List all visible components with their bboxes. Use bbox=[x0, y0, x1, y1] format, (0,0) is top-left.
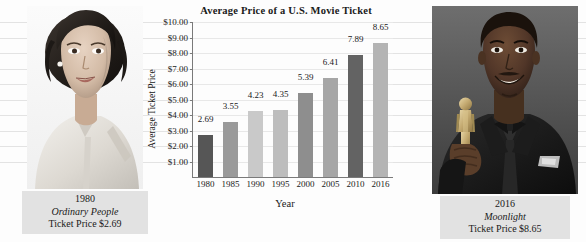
chart-title: Average Price of a U.S. Movie Ticket bbox=[136, 5, 436, 16]
bar bbox=[323, 78, 339, 177]
x-tick-label: 1990 bbox=[247, 179, 265, 189]
left-caption-movie: Ordinary People bbox=[26, 206, 144, 219]
right-photo-image bbox=[432, 6, 578, 194]
left-caption-price: Ticket Price $2.69 bbox=[26, 218, 144, 231]
left-photo-caption: 1980 Ordinary People Ticket Price $2.69 bbox=[22, 191, 148, 234]
bar-value-label: 3.55 bbox=[223, 101, 239, 111]
bar-value-label: 8.65 bbox=[373, 22, 389, 32]
x-tick-label: 1995 bbox=[272, 179, 290, 189]
right-caption-movie: Moonlight bbox=[444, 211, 566, 224]
bar-group: 4.231990 bbox=[248, 22, 264, 177]
bar bbox=[348, 55, 364, 177]
bar-group: 5.392000 bbox=[298, 22, 314, 177]
bar-group: 3.551985 bbox=[223, 22, 239, 177]
movie-ticket-price-figure: 1980 Ordinary People Ticket Price $2.69 bbox=[0, 0, 586, 242]
plot-area: $1.00$2.00$3.00$4.00$5.00$6.00$7.00$8.00… bbox=[192, 22, 393, 178]
left-photo-image bbox=[27, 6, 143, 189]
bar bbox=[198, 135, 214, 177]
bar-series: 2.6919803.5519854.2319904.3519955.392000… bbox=[193, 22, 393, 177]
x-tick-label: 2000 bbox=[297, 179, 315, 189]
x-tick-label: 1980 bbox=[197, 179, 215, 189]
bar-value-label: 4.23 bbox=[248, 90, 264, 100]
bar-value-label: 6.41 bbox=[323, 57, 339, 67]
right-caption-year: 2016 bbox=[444, 198, 566, 211]
bar-chart: Average Price of a U.S. Movie Ticket Ave… bbox=[136, 0, 436, 242]
bar-group: 6.412005 bbox=[323, 22, 339, 177]
bar bbox=[373, 43, 389, 177]
left-photo-panel: 1980 Ordinary People Ticket Price $2.69 bbox=[14, 6, 156, 234]
bar bbox=[273, 110, 289, 177]
portrait-1980-svg bbox=[27, 6, 143, 189]
bar bbox=[248, 111, 264, 177]
bar-value-label: 2.69 bbox=[198, 114, 214, 124]
bar-group: 8.652016 bbox=[373, 22, 389, 177]
portrait-2016-svg bbox=[432, 6, 578, 194]
bar-value-label: 7.89 bbox=[348, 34, 364, 44]
bar-value-label: 5.39 bbox=[298, 72, 314, 82]
x-tick-label: 2010 bbox=[347, 179, 365, 189]
x-tick-label: 1985 bbox=[222, 179, 240, 189]
bar-group: 2.691980 bbox=[198, 22, 214, 177]
x-axis-title: Year bbox=[174, 198, 396, 209]
x-tick-label: 2005 bbox=[322, 179, 340, 189]
bar bbox=[298, 93, 314, 177]
bar-group: 7.892010 bbox=[348, 22, 364, 177]
bar-value-label: 4.35 bbox=[273, 89, 289, 99]
bar-group: 4.351995 bbox=[273, 22, 289, 177]
left-caption-year: 1980 bbox=[26, 193, 144, 206]
right-caption-price: Ticket Price $8.65 bbox=[444, 223, 566, 236]
x-tick-label: 2016 bbox=[372, 179, 390, 189]
right-photo-panel: 2016 Moonlight Ticket Price $8.65 bbox=[432, 6, 578, 239]
right-photo-caption: 2016 Moonlight Ticket Price $8.65 bbox=[440, 196, 570, 239]
bar bbox=[223, 122, 239, 177]
